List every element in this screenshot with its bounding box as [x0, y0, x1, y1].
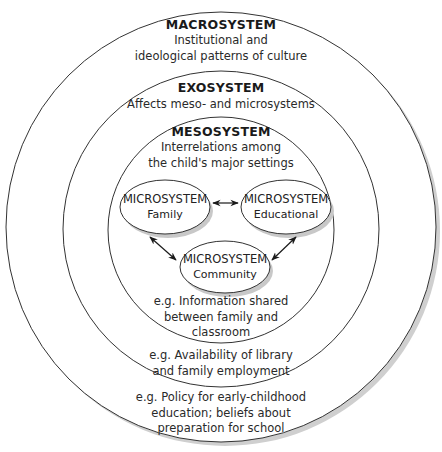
mesosystem-example: e.g. Information shared between family a…: [0, 294, 442, 341]
macrosystem-description: Institutional and ideological patterns o…: [0, 33, 442, 64]
microsystem-educational-subtitle: Educational: [241, 207, 331, 222]
mesosystem-example-line: between family and: [0, 310, 442, 326]
mesosystem-title: MESOSYSTEM: [0, 124, 442, 139]
microsystem-family: MICROSYSTEM Family: [120, 192, 210, 222]
microsystem-community: MICROSYSTEM Community: [180, 252, 270, 282]
macrosystem-example-line: e.g. Policy for early-childhood: [0, 390, 442, 406]
macrosystem-description-line: ideological patterns of culture: [0, 49, 442, 65]
exosystem-example-line: e.g. Availability of library: [0, 348, 442, 364]
microsystem-family-title: MICROSYSTEM: [120, 192, 210, 207]
microsystem-educational: MICROSYSTEM Educational: [241, 192, 331, 222]
exosystem-description: Affects meso- and microsystems: [0, 97, 442, 113]
exosystem-example: e.g. Availability of library and family …: [0, 348, 442, 379]
microsystem-community-subtitle: Community: [180, 267, 270, 282]
exosystem-description-line: Affects meso- and microsystems: [0, 97, 442, 113]
mesosystem-description-line: the child's major settings: [0, 156, 442, 172]
microsystem-educational-title: MICROSYSTEM: [241, 192, 331, 207]
nested-systems-diagram: [0, 0, 442, 452]
macrosystem-description-line: Institutional and: [0, 33, 442, 49]
mesosystem-example-line: classroom: [0, 325, 442, 341]
microsystem-family-subtitle: Family: [120, 207, 210, 222]
macrosystem-example-line: education; beliefs about: [0, 406, 442, 422]
mesosystem-description-line: Interrelations among: [0, 140, 442, 156]
macrosystem-example-line: preparation for school: [0, 421, 442, 437]
exosystem-example-line: and family employment: [0, 364, 442, 380]
microsystem-community-title: MICROSYSTEM: [180, 252, 270, 267]
mesosystem-description: Interrelations among the child's major s…: [0, 140, 442, 171]
macrosystem-example: e.g. Policy for early-childhood educatio…: [0, 390, 442, 437]
mesosystem-example-line: e.g. Information shared: [0, 294, 442, 310]
exosystem-title: EXOSYSTEM: [0, 80, 442, 95]
macrosystem-title: MACROSYSTEM: [0, 17, 442, 32]
